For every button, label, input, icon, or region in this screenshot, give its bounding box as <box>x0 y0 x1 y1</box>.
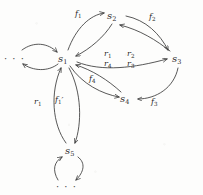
node-s3: s3 <box>172 53 181 66</box>
node-s2: s2 <box>107 10 116 23</box>
edge-s4-to-s1 <box>76 65 121 92</box>
bottom-ellipsis: · · · <box>56 181 77 192</box>
left-ellipsis: · · · <box>4 53 25 64</box>
edge-label-f1: f1 <box>74 8 82 19</box>
edge-label-f2: f2 <box>148 11 156 22</box>
edge-label-r3-center: r3 <box>127 58 135 69</box>
state-transition-graph: s1 s2 s3 s4 s5 · · · · · · f1 f2 f3 f4 <box>0 0 203 195</box>
edge-s1-to-s5 <box>69 68 80 143</box>
node-s5: s5 <box>65 145 74 158</box>
node-s4: s4 <box>120 93 129 106</box>
edge-label-f3: f3 <box>150 96 158 107</box>
edge-label-r4-center: r4 <box>104 58 112 69</box>
edge-s5-to-s1 <box>54 68 66 143</box>
edge-s1-to-s2 <box>68 13 104 50</box>
edge-s5-to-ellipsis <box>76 157 83 180</box>
edge-label-f1-prime: f1′ <box>54 94 64 105</box>
edge-ellipsis-to-s1 <box>22 44 57 52</box>
edge-label-r1-left: r1 <box>34 96 41 107</box>
edge-s1-to-ellipsis <box>23 64 58 70</box>
diagram-canvas: s1 s2 s3 s4 s5 · · · · · · f1 f2 f3 f4 <box>0 0 203 195</box>
edge-s1-to-s3 <box>77 59 167 68</box>
node-s1: s1 <box>58 53 67 66</box>
edge-ellipsis-to-s5 <box>55 157 62 180</box>
edge-s3-to-s4 <box>138 68 178 99</box>
edge-label-f4: f4 <box>88 73 96 84</box>
